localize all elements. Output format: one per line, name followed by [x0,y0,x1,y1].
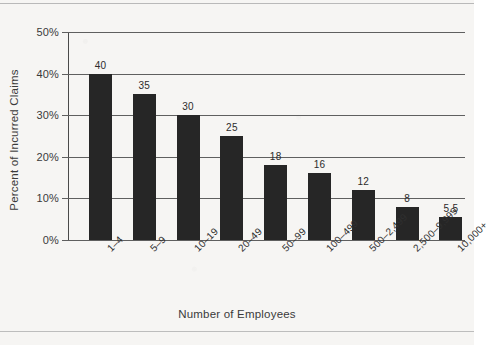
bar-value-label: 8 [404,193,410,204]
x-axis-title: Number of Employees [0,308,474,320]
bar-value-label: 40 [95,60,107,71]
y-axis-tick-label: 20% [36,151,59,163]
bar-value-label: 18 [270,151,282,162]
y-axis-tick-label: 0% [43,234,59,246]
bar[interactable]: 12 [352,190,375,240]
bar-value-label: 16 [314,159,326,170]
y-axis-tick [62,240,68,241]
bar[interactable]: 40 [89,74,112,240]
bar[interactable]: 35 [133,94,156,240]
bar-value-label: 30 [182,101,194,112]
bar-value-label: 35 [138,80,150,91]
y-axis-tick [62,74,68,75]
bar-value-label: 25 [226,122,238,133]
bar[interactable]: 30 [177,115,200,240]
y-axis-title: Percent of Incurred Claims [6,40,22,240]
bar[interactable]: 18 [264,165,287,240]
y-axis-tick-label: 50% [36,26,59,38]
y-axis-tick-label: 10% [36,192,59,204]
gridline: 50% [68,32,465,33]
y-axis-tick [62,157,68,158]
y-axis-tick-label: 40% [36,68,59,80]
gridline: 30% [68,115,465,116]
bar[interactable]: 16 [308,173,331,240]
bar[interactable]: 25 [220,136,243,240]
y-axis-tick [62,115,68,116]
y-axis-title-text: Percent of Incurred Claims [8,69,20,210]
y-axis-tick [62,198,68,199]
plot-area: 0%10%20%30%40%50%4035302518161285.5 [68,32,465,240]
gridline: 20% [68,157,465,158]
gridline: 40% [68,74,465,75]
gridline: 0% [68,240,465,241]
y-axis-tick [62,32,68,33]
y-axis-tick-label: 30% [36,109,59,121]
bar-value-label: 12 [357,176,369,187]
